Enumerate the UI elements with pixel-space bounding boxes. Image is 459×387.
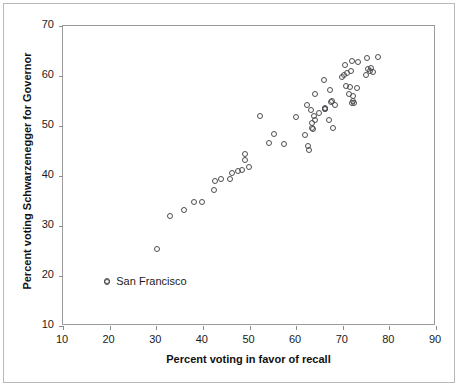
data-point [312, 91, 318, 97]
data-point [351, 100, 357, 106]
data-point [308, 107, 314, 113]
data-point [167, 213, 173, 219]
data-point [154, 246, 160, 252]
data-point [342, 62, 348, 68]
data-point [355, 59, 361, 65]
data-point [348, 68, 354, 74]
x-axis-tick-label: 40 [182, 333, 222, 345]
scatter-plot-figure: Percent voting Schwarzenegger for Govern… [0, 0, 459, 387]
data-point [316, 110, 322, 116]
data-point [211, 187, 217, 193]
x-axis-tick [63, 326, 64, 330]
data-point [257, 113, 263, 119]
data-point [321, 77, 327, 83]
x-axis-tick-label: 70 [322, 333, 362, 345]
data-point [227, 176, 233, 182]
y-axis-tick-label: 30 [24, 218, 54, 230]
y-axis-tick-label: 20 [24, 268, 54, 280]
annotation-label: San Francisco [116, 275, 186, 287]
data-point [218, 176, 224, 182]
open-circle-marker-icon [104, 278, 110, 284]
data-point [312, 117, 318, 123]
x-axis-tick [389, 326, 390, 330]
data-point [199, 199, 205, 205]
data-point [347, 84, 353, 90]
x-axis-tick [343, 326, 344, 330]
data-point [310, 126, 316, 132]
x-axis-tick-label: 80 [368, 333, 408, 345]
y-axis-tick [59, 326, 63, 327]
data-point [239, 167, 245, 173]
x-axis-tick [250, 326, 251, 330]
plot-area: San Francisco [62, 25, 435, 325]
data-point [181, 207, 187, 213]
data-point [246, 164, 252, 170]
data-point [271, 131, 277, 137]
y-axis-tick-label: 60 [24, 68, 54, 80]
x-axis-title: Percent voting in favor of recall [62, 353, 435, 365]
x-axis-tick [156, 326, 157, 330]
x-axis-tick-label: 10 [42, 333, 82, 345]
y-axis-tick-label: 40 [24, 168, 54, 180]
x-axis-tick-label: 60 [275, 333, 315, 345]
x-axis-tick-label: 30 [135, 333, 175, 345]
x-axis-tick-label: 50 [229, 333, 269, 345]
data-point [350, 93, 356, 99]
data-point [332, 102, 338, 108]
data-point [306, 147, 312, 153]
x-axis-tick-label: 20 [89, 333, 129, 345]
data-point [281, 141, 287, 147]
data-point [191, 199, 197, 205]
data-point [330, 125, 336, 131]
x-axis-tick-label: 90 [415, 333, 455, 345]
data-point [266, 140, 272, 146]
x-axis-tick [203, 326, 204, 330]
data-point [293, 114, 299, 120]
data-point [349, 58, 355, 64]
data-point [370, 69, 376, 75]
y-axis-tick-label: 10 [24, 318, 54, 330]
san-francisco-annotation: San Francisco [104, 275, 186, 287]
x-axis-tick [436, 326, 437, 330]
data-point [327, 87, 333, 93]
y-axis-tick-label: 50 [24, 118, 54, 130]
y-axis-tick-label: 70 [24, 18, 54, 30]
data-point [364, 55, 370, 61]
x-axis-tick [110, 326, 111, 330]
data-point [375, 54, 381, 60]
data-point [242, 157, 248, 163]
data-point [326, 117, 332, 123]
data-point [354, 85, 360, 91]
data-point [302, 132, 308, 138]
x-axis-tick [296, 326, 297, 330]
